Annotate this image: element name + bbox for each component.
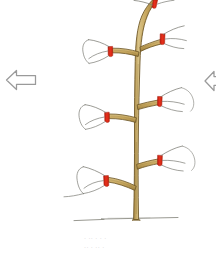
arrow-left-icon[interactable] (4, 66, 38, 94)
illustration-viewer: · ·· · · · ·· · ·· · (0, 0, 216, 260)
cut-mark-middle-left (105, 112, 110, 122)
cut-mark-middle-right (157, 96, 162, 106)
arrow-right-icon[interactable] (203, 68, 216, 94)
cut-mark-lower-right (157, 155, 162, 166)
branch-middle-right (137, 88, 194, 112)
caption-line-2: ·· · ·· · (84, 243, 160, 252)
caption-block: · ·· · · · ·· · ·· · (84, 234, 160, 252)
branch-upper-right (140, 26, 186, 52)
cut-mark-upper-right (160, 34, 165, 45)
caption-line-1: · ·· · · · (84, 234, 160, 243)
ground-line (74, 218, 178, 221)
branch-upper-left (83, 40, 139, 64)
tree-pruning-figure (0, 0, 216, 260)
branch-leader-tip (134, 0, 174, 8)
branch-lower-left (64, 167, 136, 197)
branch-middle-left (79, 105, 136, 130)
cut-mark-lower-left (104, 176, 109, 187)
cut-mark-upper-left (108, 46, 113, 56)
branch-lower-right (137, 146, 195, 171)
